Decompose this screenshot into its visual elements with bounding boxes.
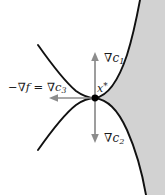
gradient-c2-subscript: 2 xyxy=(119,136,124,146)
negative-gradient-f-label: −∇f = ∇c3 xyxy=(8,82,66,95)
gradient-c3-arrow xyxy=(49,94,95,101)
figure-canvas xyxy=(0,0,165,195)
feasible-region-shading xyxy=(95,0,165,195)
gradient-c3-subscript: 3 xyxy=(61,86,66,95)
gradient-c2-arrow xyxy=(91,98,99,143)
constraint-gradient-figure: ∇c1 ∇c2 −∇f = ∇c3 x* xyxy=(0,0,165,195)
x-star-point xyxy=(92,95,99,102)
x-star-label: x* xyxy=(97,82,108,94)
gradient-c1-label: ∇c1 xyxy=(104,52,124,65)
x-star-asterisk: * xyxy=(103,81,107,91)
gradient-c2-label: ∇c2 xyxy=(104,132,124,145)
gradient-c1-subscript: 1 xyxy=(119,56,124,66)
